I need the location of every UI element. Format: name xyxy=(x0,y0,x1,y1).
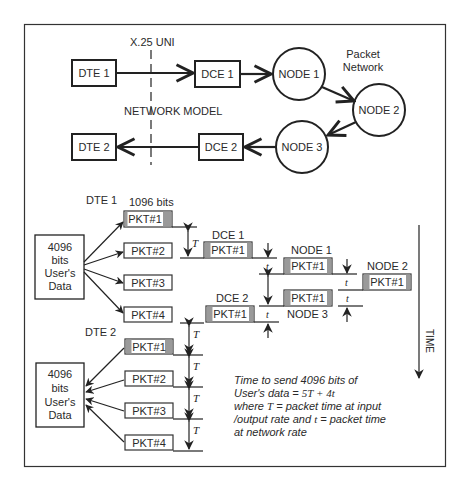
x25-uni-label: X.25 UNI xyxy=(130,36,175,48)
svg-text:PKT#3: PKT#3 xyxy=(132,405,166,417)
dte1-label: DTE 1 xyxy=(78,67,109,79)
fanin-arrow-pkt3 xyxy=(86,399,124,411)
svg-text:PKT#4: PKT#4 xyxy=(131,309,165,321)
svg-text:PKT#1: PKT#1 xyxy=(213,308,247,320)
user-data-bottom-line2: bits xyxy=(51,382,69,394)
timing-note: Time to send 4096 bits of User's data = … xyxy=(233,374,386,438)
packet-size-label: 1096 bits xyxy=(129,196,174,208)
time-axis-label: TIME xyxy=(424,329,435,353)
note-line-4: /output rate and t = packet time xyxy=(233,413,386,425)
t-label-3: t xyxy=(346,293,349,304)
x25-packet-timing-diagram: X.25 UNI DTE 1 DCE 1 DTE 2 DCE 2 NODE 1 … xyxy=(0,0,468,485)
timing-node2-label: NODE 2 xyxy=(367,260,408,272)
t-label-4: t xyxy=(266,309,269,320)
fanin-arrow-pkt1 xyxy=(86,348,124,386)
dte1-packet-3: PKT#3 xyxy=(124,275,172,290)
dte2-packet-2: PKT#2 xyxy=(125,371,173,386)
timing-dce1-label: DCE 1 xyxy=(212,229,244,241)
arrow-node1-to-node2 xyxy=(322,87,354,101)
dce1-label: DCE 1 xyxy=(201,68,233,80)
svg-text:PKT#1: PKT#1 xyxy=(291,260,325,272)
fanout-arrow-pkt1 xyxy=(84,222,123,262)
T-label-dte1: T xyxy=(192,237,199,249)
packet-network-label-1: Packet xyxy=(346,48,380,60)
note-line-2: User's data = 5T + 4t xyxy=(234,387,336,399)
t-label-1: t xyxy=(266,261,269,272)
t-label-2: t xyxy=(345,277,348,288)
user-data-top-line3: User's xyxy=(45,267,76,279)
user-data-top-line2: bits xyxy=(51,254,69,266)
user-data-bottom-line1: 4096 xyxy=(48,368,72,380)
node3-label: NODE 3 xyxy=(282,141,323,153)
timing-dte2-label: DTE 2 xyxy=(85,326,116,338)
timing-node3-label: NODE 3 xyxy=(287,308,328,320)
arrow-node2-to-node3 xyxy=(328,122,356,135)
node1-packet-1: PKT#1 xyxy=(284,258,332,274)
dte2-label: DTE 2 xyxy=(78,141,109,153)
user-data-top-line4: Data xyxy=(48,280,72,292)
svg-text:PKT#1: PKT#1 xyxy=(370,276,404,288)
fanin-arrow-pkt4 xyxy=(86,405,124,442)
fanout-arrow-pkt2 xyxy=(84,252,123,265)
network-model: X.25 UNI DTE 1 DCE 1 DTE 2 DCE 2 NODE 1 … xyxy=(72,36,405,173)
user-data-bottom-line3: User's xyxy=(45,396,76,408)
svg-text:PKT#1: PKT#1 xyxy=(128,213,162,225)
fanout-arrow-pkt3 xyxy=(84,269,123,283)
svg-text:PKT#1: PKT#1 xyxy=(132,341,166,353)
T-label-dte2-2: T xyxy=(193,360,200,372)
dte1-packet-2: PKT#2 xyxy=(124,243,172,258)
timing-dce2-label: DCE 2 xyxy=(216,292,248,304)
svg-text:PKT#1: PKT#1 xyxy=(211,244,245,256)
dte2-packet-1: PKT#1 xyxy=(125,339,173,354)
dce2-label: DCE 2 xyxy=(205,141,237,153)
svg-text:PKT#2: PKT#2 xyxy=(132,373,166,385)
note-line-3: where T = packet time at input xyxy=(234,400,382,412)
dce2-packet-1: PKT#1 xyxy=(206,306,254,322)
node2-packet-1: PKT#1 xyxy=(363,274,411,290)
user-data-top-line1: 4096 xyxy=(48,241,72,253)
note-line-1: Time to send 4096 bits of xyxy=(234,374,358,386)
dte2-packet-4: PKT#4 xyxy=(125,435,173,450)
svg-text:PKT#1: PKT#1 xyxy=(291,292,325,304)
note-line-5: at network rate xyxy=(234,426,307,438)
T-label-dte2-1: T xyxy=(193,328,200,340)
node3-packet-1: PKT#1 xyxy=(284,290,332,306)
timing-node1-label: NODE 1 xyxy=(291,244,332,256)
network-model-title: NETWORK MODEL xyxy=(124,105,222,117)
fanout-arrow-pkt4 xyxy=(84,272,123,313)
dte2-packet-3: PKT#3 xyxy=(125,403,173,418)
timing-dte1-label: DTE 1 xyxy=(86,194,117,206)
fanin-arrow-pkt2 xyxy=(86,380,124,392)
node2-label: NODE 2 xyxy=(359,104,400,116)
T-label-dte2-3: T xyxy=(193,392,200,404)
T-label-dte2-4: T xyxy=(193,424,200,436)
svg-text:PKT#4: PKT#4 xyxy=(132,437,166,449)
packet-network-label-2: Network xyxy=(343,61,384,73)
user-data-bottom-line4: Data xyxy=(48,409,72,421)
dte1-packet-1: PKT#1 xyxy=(124,211,172,227)
svg-text:PKT#3: PKT#3 xyxy=(131,277,165,289)
dte1-packet-4: PKT#4 xyxy=(124,307,172,322)
svg-text:PKT#2: PKT#2 xyxy=(131,245,165,257)
node1-label: NODE 1 xyxy=(279,68,320,80)
dce1-packet-1: PKT#1 xyxy=(204,242,252,258)
